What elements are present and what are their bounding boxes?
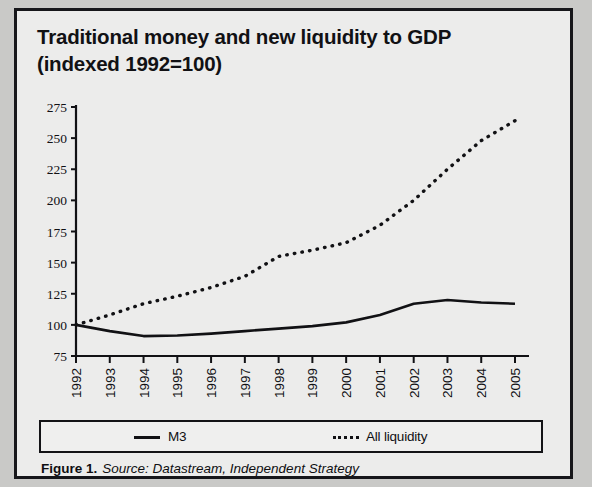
x-axis-tick-label: 2004: [474, 368, 489, 399]
x-axis-tick-label: 1998: [272, 368, 287, 398]
y-axis-tick-label: 175: [47, 225, 68, 240]
legend-key-dotted-line-icon: [331, 431, 361, 443]
chart-plot-area: 7510012515017520022525027519921993199419…: [17, 11, 576, 482]
legend-item-m3: M3: [133, 422, 186, 451]
y-axis-tick-label: 150: [47, 256, 68, 271]
series-line-all-liquidity: [76, 121, 515, 325]
x-axis-tick-label: 1997: [238, 368, 253, 398]
y-axis-tick-label: 275: [47, 100, 68, 115]
chart-legend: M3 All liquidity: [39, 420, 543, 453]
figure-caption: Figure 1.Source: Datastream, Independent…: [41, 461, 359, 476]
x-axis-tick-label: 1993: [103, 368, 118, 398]
x-axis-tick-label: 1992: [69, 368, 84, 398]
x-axis-tick-label: 1994: [137, 368, 152, 399]
legend-label-m3: M3: [168, 429, 186, 444]
y-axis-tick-label: 100: [47, 318, 68, 333]
x-axis-tick-label: 1999: [305, 368, 320, 398]
y-axis-tick-label: 75: [54, 349, 68, 364]
x-axis-tick-label: 2002: [407, 368, 422, 398]
x-axis-tick-label: 2003: [440, 368, 455, 398]
y-axis-tick-label: 225: [47, 162, 68, 177]
legend-label-all-liquidity: All liquidity: [366, 429, 427, 444]
figure-panel: Traditional money and new liquidity to G…: [14, 8, 573, 479]
y-axis-tick-label: 250: [47, 131, 68, 146]
x-axis-tick-label: 2005: [508, 368, 523, 398]
x-axis-tick-label: 2000: [339, 368, 354, 398]
x-axis-tick-label: 1996: [204, 368, 219, 398]
legend-key-solid-line-icon: [133, 431, 163, 443]
y-axis-tick-label: 125: [47, 287, 68, 302]
legend-item-all-liquidity: All liquidity: [331, 422, 427, 451]
figure-caption-source: Source: Datastream, Independent Strategy: [102, 461, 359, 476]
y-axis-tick-label: 200: [47, 193, 68, 208]
line-chart: 7510012515017520022525027519921993199419…: [17, 11, 576, 482]
figure-caption-label: Figure 1.: [41, 461, 97, 476]
x-axis-tick-label: 1995: [170, 368, 185, 398]
x-axis-tick-label: 2001: [373, 368, 388, 398]
